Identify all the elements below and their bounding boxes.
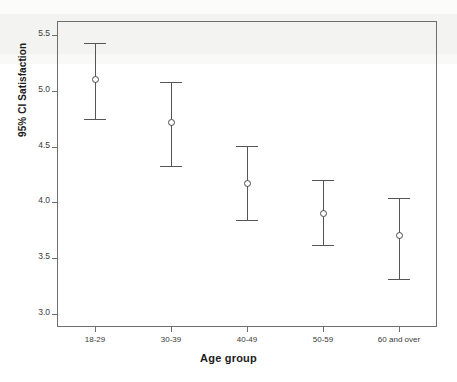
x-axis-tick-mark	[171, 327, 172, 332]
y-axis-tick: 4.0	[0, 202, 57, 203]
error-bar-lower-cap	[84, 119, 106, 120]
x-axis-tick-mark	[323, 327, 324, 332]
x-axis-tick-label: 18-29	[85, 335, 105, 344]
x-axis-title: Age group	[0, 352, 457, 364]
error-bar-lower-cap	[312, 245, 334, 246]
y-axis-tick-label: 3.0	[38, 307, 50, 317]
error-bar-upper-cap	[236, 146, 258, 147]
x-axis-tick-label: 60 and over	[378, 335, 420, 344]
y-axis-tick: 4.5	[0, 147, 57, 148]
error-bar-lower-cap	[236, 220, 258, 221]
y-axis-tick-mark	[52, 35, 57, 36]
y-axis-tick-label: 3.5	[38, 251, 50, 261]
y-axis-tick: 3.0	[0, 314, 57, 315]
y-axis-tick-label: 4.5	[38, 140, 50, 150]
data-point-marker	[168, 119, 175, 126]
y-axis-tick: 5.5	[0, 35, 57, 36]
data-point-marker	[320, 210, 327, 217]
y-axis-tick: 5.0	[0, 91, 57, 92]
y-axis-tick-mark	[52, 202, 57, 203]
x-axis-tick-label: 50-59	[313, 335, 333, 344]
x-axis-tick-label: 30-39	[161, 335, 181, 344]
error-bar-upper-cap	[312, 180, 334, 181]
y-axis-tick-label: 5.0	[38, 84, 50, 94]
error-bar-upper-cap	[84, 43, 106, 44]
y-axis-tick: 3.5	[0, 258, 57, 259]
y-axis-title: 95% CI Satisfaction	[17, 0, 35, 137]
y-axis-tick-mark	[52, 147, 57, 148]
error-bar-upper-cap	[388, 198, 410, 199]
y-axis-tick-label: 4.0	[38, 195, 50, 205]
error-bar-chart: 95% CI Satisfaction 3.03.54.04.55.05.5 1…	[0, 0, 457, 382]
error-bar-lower-cap	[388, 279, 410, 280]
error-bar-upper-cap	[160, 82, 182, 83]
x-axis-tick-mark	[95, 327, 96, 332]
data-point-marker	[244, 180, 251, 187]
scan-artifact-band	[0, 0, 457, 14]
error-bar-lower-cap	[160, 166, 182, 167]
y-axis-tick-mark	[52, 314, 57, 315]
x-axis-tick-mark	[247, 327, 248, 332]
x-axis-tick-label: 40-49	[237, 335, 257, 344]
y-axis-tick-mark	[52, 258, 57, 259]
y-axis-tick-mark	[52, 91, 57, 92]
y-axis-tick-label: 5.5	[38, 28, 50, 38]
x-axis-tick-mark	[399, 327, 400, 332]
